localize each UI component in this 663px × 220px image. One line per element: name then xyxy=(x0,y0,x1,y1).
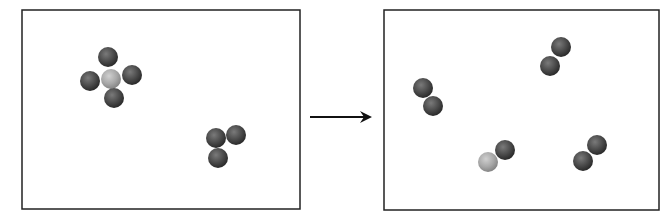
dark-atom xyxy=(98,47,118,67)
dark-atom xyxy=(208,148,228,168)
dark-atom xyxy=(540,56,560,76)
dark-atom xyxy=(587,135,607,155)
reactants-frame xyxy=(22,10,300,209)
reaction-diagram xyxy=(0,0,663,220)
dark-atom xyxy=(551,37,571,57)
dark-atom xyxy=(495,140,515,160)
dark-atom xyxy=(104,88,124,108)
dark-atom xyxy=(573,151,593,171)
dark-atom xyxy=(423,96,443,116)
dark-atom xyxy=(226,125,246,145)
dark-atom xyxy=(413,78,433,98)
dark-atom xyxy=(122,65,142,85)
light-atom xyxy=(101,69,121,89)
dark-atom xyxy=(80,71,100,91)
light-atom xyxy=(478,152,498,172)
reaction-arrow xyxy=(310,111,372,123)
reactants-panel xyxy=(22,10,300,209)
products-panel xyxy=(384,10,659,210)
dark-atom xyxy=(206,128,226,148)
